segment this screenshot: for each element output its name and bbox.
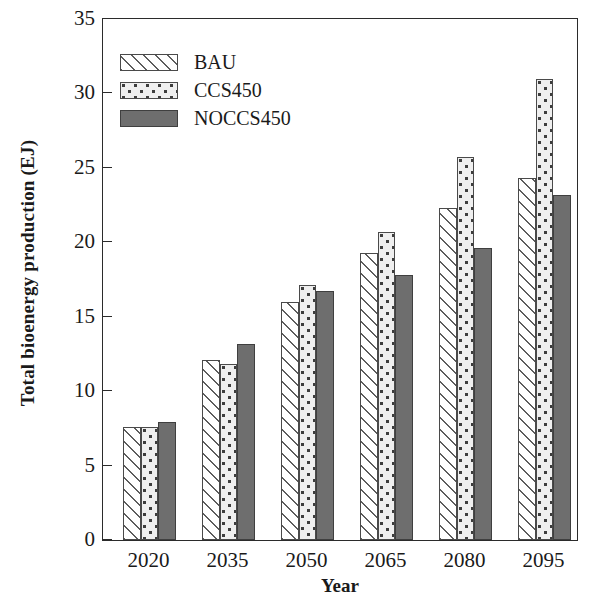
legend-swatch-bau-icon: [120, 54, 178, 71]
x-axis-tick-label: 2080: [425, 548, 505, 573]
bar-noccs450-2050: [316, 291, 334, 540]
bar-ccs450-2050: [299, 285, 317, 540]
y-axis-tick-label: 15: [74, 304, 95, 328]
bar-noccs450-2035: [237, 344, 255, 540]
legend-item-noccs450: NOCCS450: [120, 104, 291, 132]
legend-label-noccs450: NOCCS450: [194, 107, 291, 130]
y-axis-tick: 20: [103, 241, 112, 242]
x-axis-title: Year: [102, 575, 578, 597]
bar-ccs450-2080: [457, 157, 475, 540]
y-axis-tick-label: 35: [74, 6, 95, 30]
x-axis-tick-label: 2020: [109, 548, 189, 573]
x-axis-tick-label: 2065: [346, 548, 426, 573]
legend-label-ccs450: CCS450: [194, 79, 262, 102]
y-axis-tick-label: 10: [74, 378, 95, 402]
y-axis-title: Total bioenergy production (EJ): [17, 13, 39, 533]
legend-item-bau: BAU: [120, 48, 291, 76]
x-axis-tick-label: 2050: [267, 548, 347, 573]
y-axis-tick: 15: [103, 316, 112, 317]
y-axis-tick: 35: [103, 18, 112, 19]
x-axis-tick-label: 2035: [188, 548, 268, 573]
y-axis-tick-label: 5: [85, 453, 96, 477]
bar-chart-figure: Total bioenergy production (EJ) 05101520…: [0, 0, 595, 599]
y-axis-tick: 10: [103, 390, 112, 391]
bar-bau-2080: [439, 208, 457, 540]
bar-ccs450-2035: [220, 364, 238, 540]
bar-bau-2050: [281, 302, 299, 540]
y-axis-tick-label: 20: [74, 229, 95, 253]
legend-item-ccs450: CCS450: [120, 76, 291, 104]
legend-swatch-noccs450-icon: [120, 110, 178, 127]
y-axis-tick-label: 30: [74, 80, 95, 104]
legend: BAU CCS450 NOCCS450: [120, 48, 291, 132]
y-axis-tick: 25: [103, 167, 112, 168]
bar-noccs450-2020: [158, 422, 176, 540]
y-axis-tick-label: 0: [85, 527, 96, 551]
bar-ccs450-2065: [378, 232, 396, 540]
bar-bau-2095: [518, 178, 536, 540]
bar-ccs450-2095: [536, 79, 554, 540]
x-axis-tick-label: 2095: [504, 548, 584, 573]
y-axis-tick: 30: [103, 92, 112, 93]
bar-noccs450-2065: [395, 275, 413, 540]
bar-bau-2020: [123, 427, 141, 540]
bar-noccs450-2080: [474, 248, 492, 540]
y-axis-tick-label: 25: [74, 155, 95, 179]
legend-label-bau: BAU: [194, 51, 236, 74]
bar-bau-2065: [360, 253, 378, 540]
legend-swatch-ccs450-icon: [120, 82, 178, 99]
bar-bau-2035: [202, 360, 220, 540]
y-axis-tick: 0: [103, 539, 112, 540]
y-axis-tick: 5: [103, 465, 112, 466]
bar-ccs450-2020: [141, 427, 159, 540]
bar-noccs450-2095: [553, 195, 571, 540]
